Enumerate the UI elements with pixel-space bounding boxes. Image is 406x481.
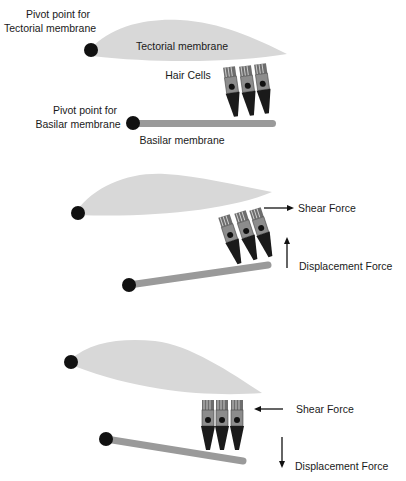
panel-2-upward: Shear Force Displacement Force bbox=[71, 174, 393, 292]
tectorial-membrane bbox=[76, 174, 272, 216]
arrowhead-icon bbox=[254, 406, 261, 412]
shear-force-label: Shear Force bbox=[296, 403, 354, 415]
displacement-force-label: Displacement Force bbox=[299, 260, 393, 272]
panel-3-downward: Shear Force Displacement Force bbox=[64, 340, 389, 472]
basilar-membrane bbox=[132, 120, 276, 127]
arrowhead-icon bbox=[284, 237, 290, 244]
basilar-pivot bbox=[122, 278, 136, 292]
arrowhead-icon bbox=[279, 461, 285, 468]
tectorial-membrane-label: Tectorial membrane bbox=[136, 40, 228, 52]
tectorial-membrane bbox=[70, 340, 262, 394]
hair-cells-label: Hair Cells bbox=[165, 69, 211, 81]
pivot-tectorial-label-1: Pivot point for bbox=[26, 8, 91, 20]
basilar-pivot bbox=[99, 432, 113, 446]
hair-cell-icon bbox=[201, 400, 215, 450]
hair-cell-icon bbox=[253, 63, 274, 114]
displacement-force-label: Displacement Force bbox=[295, 460, 389, 472]
pivot-basilar-label-1: Pivot point for bbox=[53, 104, 118, 116]
hair-cell-icon bbox=[230, 400, 244, 450]
cochlear-mechanics-diagram: Pivot point for Tectorial membrane Tecto… bbox=[0, 0, 406, 481]
arrowhead-icon bbox=[287, 205, 294, 211]
basilar-pivot bbox=[126, 116, 140, 130]
pivot-tectorial-label-2: Tectorial membrane bbox=[4, 22, 96, 34]
basilar-membrane bbox=[129, 265, 268, 285]
pivot-basilar-label-2: Basilar membrane bbox=[35, 118, 120, 130]
tectorial-pivot bbox=[64, 355, 78, 369]
tectorial-pivot bbox=[71, 206, 85, 220]
panel-1-rest: Pivot point for Tectorial membrane Tecto… bbox=[4, 8, 287, 146]
hair-cell-icon bbox=[215, 400, 229, 450]
tectorial-pivot bbox=[84, 43, 98, 57]
basilar-membrane-label: Basilar membrane bbox=[139, 134, 224, 146]
hair-cell-icon bbox=[222, 66, 243, 117]
shear-force-label: Shear Force bbox=[298, 202, 356, 214]
